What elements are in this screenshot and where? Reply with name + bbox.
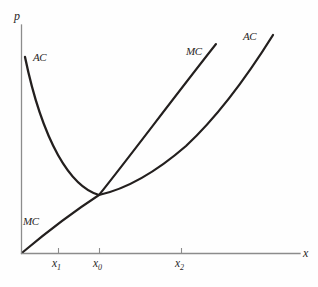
cost-curve-figure: p x AC AC MC MC x1 x0 x2 [0, 0, 318, 287]
x-tick-label-x0: x0 [93, 258, 102, 272]
ac-label-right: AC [243, 31, 256, 42]
x-tick-label-x1: x1 [52, 258, 61, 272]
ac-label-left: AC [33, 52, 46, 63]
x-tick-label-x1-sub: 1 [57, 263, 61, 272]
mc-label-upper-right: MC [186, 46, 202, 57]
x-axis-label: x [303, 247, 308, 259]
marginal-cost-curve [23, 44, 216, 252]
plot-canvas [0, 0, 318, 287]
average-cost-curve [25, 35, 273, 195]
mc-label-lower-left: MC [23, 216, 39, 227]
x-tick-label-x0-sub: 0 [98, 263, 102, 272]
x-tick-label-x2-sub: 2 [180, 263, 184, 272]
x-tick-label-x2: x2 [175, 258, 184, 272]
y-axis-label: p [14, 10, 20, 22]
